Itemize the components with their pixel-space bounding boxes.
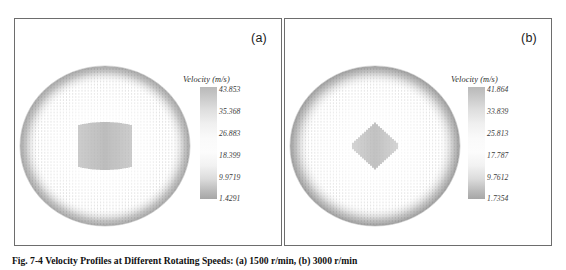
tick-label: 17.787 [487, 151, 508, 160]
panel-b-legend-body: 41.864 33.839 25.813 17.787 9.7612 1.735… [451, 87, 533, 199]
panel-a-legend-body: 43.853 35.368 26.883 18.399 9.9719 1.429… [183, 87, 265, 199]
panel-a-tag: (a) [251, 31, 267, 45]
field-a-dots [17, 53, 193, 239]
panel-a-colorbar [200, 87, 217, 199]
field-b-dots [287, 53, 463, 239]
figure-root: (a) [0, 0, 566, 270]
panel-b-tag: (b) [521, 31, 537, 45]
panel-a-legend-title: Velocity (m/s) [183, 75, 265, 84]
vector-field-b-svg [287, 53, 463, 239]
panel-b-vector-field [287, 53, 463, 239]
tick-label: 25.813 [487, 129, 508, 138]
tick-label: 18.399 [219, 151, 240, 160]
panel-b-legend: Velocity (m/s) 41.864 33.839 25.813 17.7… [451, 75, 533, 199]
panel-a-vector-field [17, 53, 193, 239]
tick-label: 33.839 [487, 107, 508, 116]
panel-b-colorbar [468, 87, 485, 199]
tick-label: 1.7354 [487, 194, 508, 203]
panel-a-legend: Velocity (m/s) 43.853 35.368 26.883 18.3… [183, 75, 265, 199]
tick-label: 43.853 [219, 85, 240, 94]
panel-b: (b) [284, 18, 552, 246]
panels-row: (a) [0, 0, 566, 252]
panel-b-colorbar-ticks: 41.864 33.839 25.813 17.787 9.7612 1.735… [487, 87, 533, 199]
panel-b-legend-title: Velocity (m/s) [451, 75, 533, 84]
figure-caption: Fig. 7-4 Velocity Profiles at Different … [12, 255, 556, 267]
tick-label: 35.368 [219, 107, 240, 116]
tick-label: 1.4291 [219, 194, 240, 203]
vector-field-a-svg [17, 53, 193, 239]
panel-a: (a) [14, 18, 282, 246]
panel-a-colorbar-ticks: 43.853 35.368 26.883 18.399 9.9719 1.429… [219, 87, 265, 199]
tick-label: 41.864 [487, 85, 508, 94]
tick-label: 9.7612 [487, 173, 508, 182]
tick-label: 26.883 [219, 129, 240, 138]
tick-label: 9.9719 [219, 173, 240, 182]
